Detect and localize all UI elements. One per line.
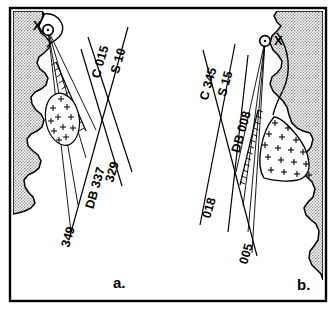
source-dot-b <box>264 40 266 42</box>
figure-container: X C 015 S 10 329 DB 337 349 a. <box>0 0 336 309</box>
source-label-b: X <box>274 33 283 48</box>
panel-label-a: a. <box>113 274 126 291</box>
source-label-a: X <box>33 18 42 33</box>
panel-label-b: b. <box>297 276 310 293</box>
figure-svg: X C 015 S 10 329 DB 337 349 a. <box>0 0 336 309</box>
source-dot-a <box>47 29 49 31</box>
